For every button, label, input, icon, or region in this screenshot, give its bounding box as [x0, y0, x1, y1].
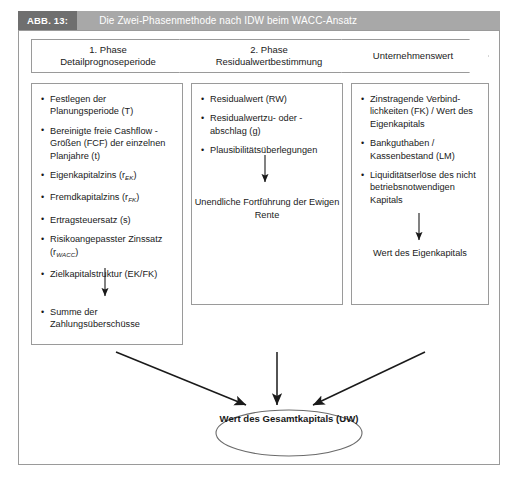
phase-1-line2: Detailprognoseperiode	[60, 56, 156, 69]
phase-chevron-2: 2. Phase Residualwertbestimmung	[179, 39, 365, 73]
list-item: Residualwertzu- oder -abschlag (g)	[201, 112, 334, 137]
phase-chevron-1: 1. Phase Detailprognoseperiode	[31, 39, 203, 73]
list-item: Zielkapitalstruktur (EK/FK)	[41, 268, 174, 280]
list-item: Bereinigte freie Cashflow - Größen (FCF)…	[41, 125, 174, 162]
list-item-result: Summe der Zahlungsüberschüsse	[41, 306, 174, 331]
bullet-list-column-1-result: Summe der Zahlungsüberschüsse	[32, 306, 182, 338]
list-item: Liquiditätserlöse des nicht betriebsnotw…	[361, 169, 480, 206]
phase-chevron-3: Unternehmenswert	[341, 39, 489, 73]
list-item: Residualwert (RW)	[201, 93, 334, 105]
caption-column-3: Wert des Eigenkapitals	[352, 247, 488, 260]
figure-title-bar: ABB. 13: Die Zwei-Phasenmethode nach IDW…	[18, 11, 500, 30]
column-residualwertbestimmung: Residualwert (RW) Residualwertzu- oder -…	[191, 83, 343, 305]
bullet-list-column-1: Festlegen der Planungsperiode (T) Berein…	[32, 84, 182, 280]
figure-number-label: ABB. 13:	[18, 11, 77, 30]
caption-column-2: Unendliche Fortführung der Ewigen Rente	[192, 196, 342, 222]
list-item: Zinstragende Verbind-lichkeiten (FK) / W…	[361, 93, 480, 130]
list-item: Plausibilitätsüberlegungen	[201, 144, 334, 156]
figure-frame: 1. Phase Detailprognoseperiode 2. Phase …	[18, 30, 500, 465]
phase-2-line1: 2. Phase	[216, 44, 323, 57]
figure-container: ABB. 13: Die Zwei-Phasenmethode nach IDW…	[0, 0, 518, 481]
list-item: Eigenkapitalzins (rEK)	[41, 169, 174, 184]
phase-1-line1: 1. Phase	[60, 44, 156, 57]
list-item: Ertragsteuersatz (s)	[41, 214, 174, 226]
figure-title-text: Die Zwei-Phasenmethode nach IDW beim WAC…	[77, 11, 500, 30]
column-unternehmenswert: Zinstragende Verbind-lichkeiten (FK) / W…	[351, 83, 489, 305]
list-item: Fremdkapitalzins (rFK)	[41, 191, 174, 206]
result-label: Wert des Gesamtkapitals (UW)	[199, 413, 379, 424]
phase-2-line2: Residualwertbestimmung	[216, 56, 323, 69]
bullet-list-column-3: Zinstragende Verbind-lichkeiten (FK) / W…	[352, 84, 488, 206]
phase-chevron-band: 1. Phase Detailprognoseperiode 2. Phase …	[31, 39, 489, 73]
bullet-list-column-2: Residualwert (RW) Residualwertzu- oder -…	[192, 84, 342, 157]
list-item: Risikoangepasster Zinssatz (rWACC)	[41, 233, 174, 261]
column-detailprognoseperiode: Festlegen der Planungsperiode (T) Berein…	[31, 83, 183, 345]
phase-3-line1: Unternehmenswert	[373, 50, 453, 63]
list-item: Festlegen der Planungsperiode (T)	[41, 93, 174, 118]
list-item: Bankguthaben / Kassenbestand (LM)	[361, 137, 480, 162]
